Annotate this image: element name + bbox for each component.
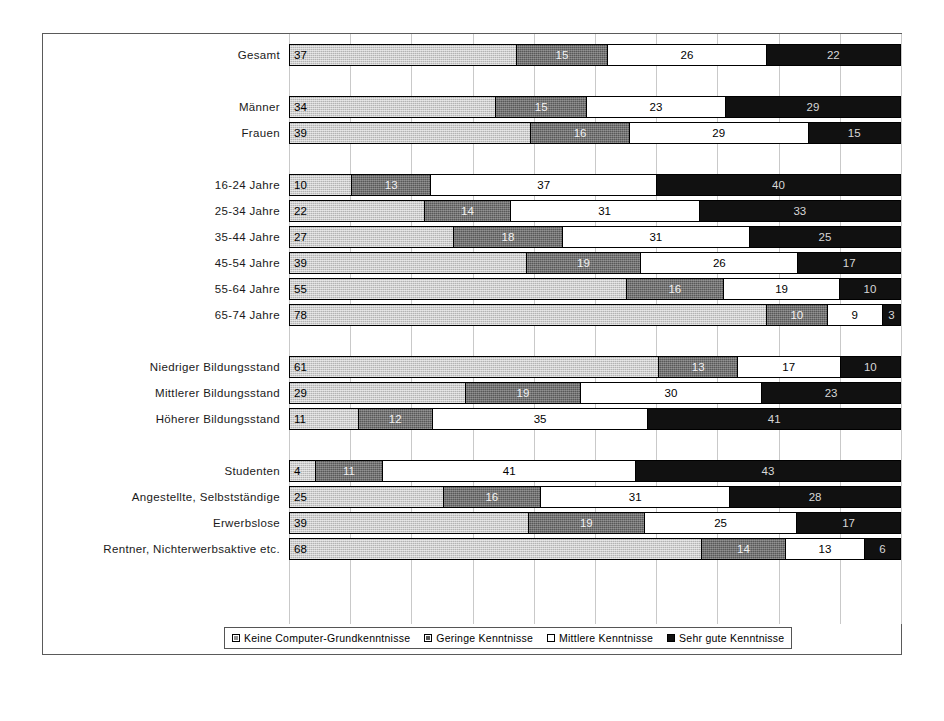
legend-swatch-icon: [232, 634, 240, 642]
bar-segment-value: 17: [842, 517, 855, 529]
bar-segment-value: 19: [517, 387, 530, 399]
chart-row: Studenten4114143: [43, 458, 901, 484]
row-category-label: Gesamt: [43, 49, 289, 61]
legend-swatch-icon: [547, 634, 555, 642]
bar-segment-value: 10: [864, 283, 877, 295]
bar-segment-value: 27: [294, 231, 307, 243]
chart-row: Angestellte, Selbstständige25163128: [43, 484, 901, 510]
bar-segment: 39: [290, 513, 528, 533]
chart-row: 25-34 Jahre22143133: [43, 198, 901, 224]
stacked-bar: 6814136: [289, 538, 901, 560]
bar-segment-value: 13: [819, 543, 832, 555]
bar-segment: 68: [290, 539, 701, 559]
bar-segment-value: 37: [537, 179, 550, 191]
stacked-bar: 34152329: [289, 96, 901, 118]
bar-segment: 10: [290, 175, 351, 195]
stacked-bar: 39162915: [289, 122, 901, 144]
bar-segment-value: 29: [294, 387, 307, 399]
legend-item[interactable]: Mittlere Kenntnisse: [547, 633, 653, 644]
stacked-bar: 10133740: [289, 174, 901, 196]
bar-segment: 10: [839, 279, 900, 299]
stacked-bar: 25163128: [289, 486, 901, 508]
bar-segment-value: 68: [294, 543, 307, 555]
bar-segment-value: 29: [712, 127, 725, 139]
bar-segment: 25: [749, 227, 900, 247]
legend-swatch-icon: [424, 634, 432, 642]
bar-segment-value: 26: [681, 49, 694, 61]
row-category-label: 35-44 Jahre: [43, 231, 289, 243]
chart-row: Mittlerer Bildungsstand29193023: [43, 380, 901, 406]
bar-segment-value: 10: [790, 309, 803, 321]
bar-segment: 19: [723, 279, 839, 299]
bar-segment-value: 4: [294, 465, 300, 477]
bar-segment-value: 29: [807, 101, 820, 113]
bar-segment: 16: [626, 279, 724, 299]
row-category-label: Mittlerer Bildungsstand: [43, 387, 289, 399]
row-category-label: Erwerbslose: [43, 517, 289, 529]
row-category-label: Männer: [43, 101, 289, 113]
chart-row: Höherer Bildungsstand11123541: [43, 406, 901, 432]
bar-segment-value: 19: [577, 257, 590, 269]
legend-item[interactable]: Geringe Kenntnisse: [424, 633, 533, 644]
chart-row: Frauen39162915: [43, 120, 901, 146]
bar-segment-value: 39: [294, 127, 307, 139]
bar-segment: 17: [796, 513, 900, 533]
bar-segment: 19: [465, 383, 580, 403]
row-category-label: Höherer Bildungsstand: [43, 413, 289, 425]
row-category-label: Angestellte, Selbstständige: [43, 491, 289, 503]
stacked-bar: 61131710: [289, 356, 901, 378]
bar-segment-value: 17: [782, 361, 795, 373]
bar-segment-value: 16: [574, 127, 587, 139]
bar-segment: 13: [658, 357, 737, 377]
bar-segment-value: 11: [294, 413, 306, 425]
bar-segment: 11: [315, 461, 383, 481]
bar-segment: 9: [827, 305, 882, 325]
stacked-bar: 55161910: [289, 278, 901, 300]
row-category-label: Rentner, Nichterwerbsaktive etc.: [43, 543, 289, 555]
bar-segment: 18: [453, 227, 562, 247]
legend-item-label: Sehr gute Kenntnisse: [679, 633, 784, 644]
stacked-bar: 4114143: [289, 460, 901, 482]
bar-segment: 31: [540, 487, 729, 507]
bar-segment-value: 40: [772, 179, 785, 191]
stacked-bar: 22143133: [289, 200, 901, 222]
bar-segment-value: 23: [649, 101, 662, 113]
bar-segment: 10: [766, 305, 827, 325]
chart-legend: Keine Computer-GrundkenntnisseGeringe Ke…: [224, 627, 792, 649]
row-category-label: Frauen: [43, 127, 289, 139]
bar-segment: 22: [766, 45, 900, 65]
bar-segment-value: 18: [502, 231, 515, 243]
bar-segment-value: 13: [385, 179, 398, 191]
bar-segment: 10: [840, 357, 900, 377]
bar-segment: 34: [290, 97, 495, 117]
bar-segment: 6: [864, 539, 900, 559]
bar-segment-value: 6: [879, 543, 885, 555]
bar-segment-value: 31: [649, 231, 662, 243]
bar-segment-value: 10: [864, 361, 877, 373]
row-category-label: 55-64 Jahre: [43, 283, 289, 295]
bar-segment-value: 25: [819, 231, 832, 243]
chart-frame: Gesamt37152622Männer34152329Frauen391629…: [42, 33, 902, 655]
bar-segment: 25: [644, 513, 797, 533]
bar-segment-value: 35: [534, 413, 547, 425]
bar-segment: 16: [530, 123, 629, 143]
bar-segment-value: 19: [580, 517, 593, 529]
legend-item[interactable]: Sehr gute Kenntnisse: [667, 633, 784, 644]
legend-item[interactable]: Keine Computer-Grundkenntnisse: [232, 633, 410, 644]
bar-segment: 19: [526, 253, 641, 273]
bar-segment: 15: [808, 123, 900, 143]
bar-segment-value: 41: [768, 413, 781, 425]
plot-area: Gesamt37152622Männer34152329Frauen391629…: [43, 34, 901, 654]
bar-segment-value: 78: [294, 309, 307, 321]
bar-segment: 61: [290, 357, 658, 377]
bar-segment: 41: [647, 409, 900, 429]
bar-segment: 29: [629, 123, 808, 143]
bar-segment-value: 37: [294, 49, 307, 61]
bar-segment: 17: [797, 253, 900, 273]
bar-segment: 13: [785, 539, 864, 559]
chart-row: Niedriger Bildungsstand61131710: [43, 354, 901, 380]
bar-segment: 25: [290, 487, 443, 507]
bar-segment-value: 28: [809, 491, 822, 503]
bar-segment: 15: [495, 97, 586, 117]
chart-row-spacer: [43, 328, 901, 354]
